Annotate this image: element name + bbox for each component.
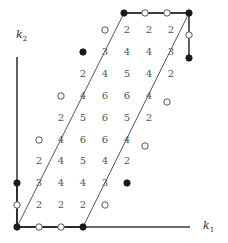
open-lattice-point bbox=[142, 10, 148, 16]
lattice-value-label: 4 bbox=[54, 176, 68, 190]
lattice-value-label: 6 bbox=[76, 133, 90, 147]
open-lattice-point bbox=[36, 137, 42, 143]
lattice-value-label: 5 bbox=[76, 154, 90, 168]
lattice-polygon-figure: k2 k1 2223443245424664256524664245423443… bbox=[0, 0, 228, 243]
lattice-value-label: 4 bbox=[76, 89, 90, 103]
lattice-value-label: 4 bbox=[142, 67, 156, 81]
open-lattice-point bbox=[102, 202, 108, 208]
lattice-value-label: 2 bbox=[120, 154, 134, 168]
lattice-value-label: 2 bbox=[142, 23, 156, 37]
open-lattice-point bbox=[164, 99, 170, 105]
lattice-value-label: 2 bbox=[32, 198, 46, 212]
lattice-value-label: 3 bbox=[98, 176, 112, 190]
lattice-value-label: 3 bbox=[164, 45, 178, 59]
open-lattice-point bbox=[142, 143, 148, 149]
filled-lattice-point bbox=[14, 180, 20, 186]
lattice-value-label: 4 bbox=[142, 45, 156, 59]
lattice-value-label: 4 bbox=[98, 154, 112, 168]
lattice-value-label: 4 bbox=[54, 154, 68, 168]
x-axis-label: k1 bbox=[203, 219, 214, 234]
lattice-value-label: 2 bbox=[142, 111, 156, 125]
lattice-value-label: 2 bbox=[164, 67, 178, 81]
lattice-value-label: 3 bbox=[32, 176, 46, 190]
lattice-value-label: 2 bbox=[54, 198, 68, 212]
lattice-value-label: 6 bbox=[98, 89, 112, 103]
lattice-value-label: 3 bbox=[98, 45, 112, 59]
open-lattice-point bbox=[36, 224, 42, 230]
open-lattice-point bbox=[58, 224, 64, 230]
lattice-value-label: 2 bbox=[120, 23, 134, 37]
open-lattice-point bbox=[14, 202, 20, 208]
x-axis-label-text: k bbox=[203, 219, 210, 232]
lattice-value-label: 2 bbox=[76, 198, 90, 212]
y-axis-label: k2 bbox=[16, 28, 27, 43]
lattice-value-label: 2 bbox=[32, 154, 46, 168]
open-lattice-point bbox=[164, 10, 170, 16]
open-lattice-point bbox=[102, 27, 108, 33]
lattice-value-label: 2 bbox=[54, 111, 68, 125]
filled-lattice-point bbox=[80, 49, 86, 55]
lattice-value-label: 5 bbox=[120, 67, 134, 81]
x-axis-label-subscript: 1 bbox=[210, 226, 214, 234]
lattice-value-label: 5 bbox=[76, 111, 90, 125]
lattice-value-label: 4 bbox=[120, 45, 134, 59]
filled-lattice-point bbox=[80, 224, 86, 230]
lattice-value-label: 6 bbox=[98, 133, 112, 147]
lattice-value-label: 2 bbox=[76, 67, 90, 81]
open-lattice-point bbox=[186, 32, 192, 38]
lattice-value-label: 4 bbox=[98, 67, 112, 81]
lattice-value-label: 4 bbox=[54, 133, 68, 147]
lattice-value-label: 6 bbox=[98, 111, 112, 125]
y-axis-label-subscript: 2 bbox=[23, 35, 27, 43]
lattice-value-label: 2 bbox=[164, 23, 178, 37]
filled-lattice-point bbox=[121, 10, 127, 16]
filled-lattice-point bbox=[124, 180, 130, 186]
filled-lattice-point bbox=[186, 55, 192, 61]
filled-lattice-point bbox=[186, 10, 192, 16]
filled-lattice-point bbox=[14, 224, 20, 230]
lattice-value-label: 6 bbox=[120, 89, 134, 103]
y-axis-label-text: k bbox=[16, 28, 23, 41]
lattice-value-label: 4 bbox=[120, 133, 134, 147]
open-lattice-point bbox=[58, 93, 64, 99]
lattice-value-label: 4 bbox=[142, 89, 156, 103]
lattice-value-label: 5 bbox=[120, 111, 134, 125]
lattice-value-label: 4 bbox=[76, 176, 90, 190]
